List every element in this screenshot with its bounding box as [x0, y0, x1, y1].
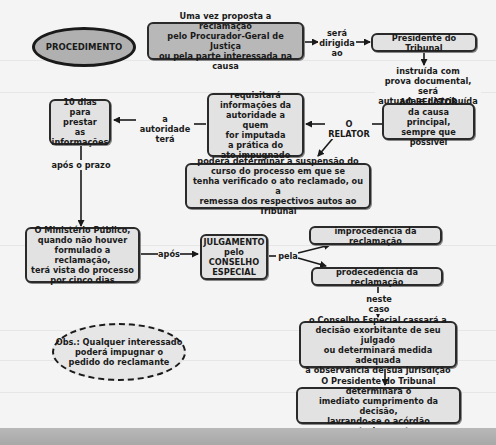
edge-label-neste-caso: neste caso	[355, 294, 403, 314]
node-suspensao-processo: poderá determinar a suspensão do curso d…	[185, 163, 371, 209]
node-presidente-tribunal: Presidente do Tribunal	[371, 33, 477, 52]
node-conselho-especial-cassara: o Conselho Especial cassará a decisão ex…	[299, 321, 457, 368]
node-improcedencia: improcedência da reclamação	[309, 226, 442, 245]
node-procedencia: prodecedência da reclamação	[311, 267, 443, 286]
edge-label-sera-dirigida: será dirigida ao	[318, 28, 356, 58]
edge-label-autoridade-tera: a autoridade terá	[136, 114, 194, 144]
ao-relator-title: AO RELATOR	[400, 97, 458, 107]
node-ao-relator: AO RELATOR da causa principal, sempre qu…	[382, 103, 475, 140]
edge-label-o-relator: O RELATOR	[326, 119, 372, 139]
node-10-dias: 10 dias para prestar as informações	[49, 99, 111, 145]
page-bottom-bar	[0, 428, 496, 445]
edge-label-apos: após	[158, 249, 180, 259]
note-obs-impugnar: Obs.: Qualquer interessado poderá impugn…	[52, 323, 186, 381]
node-ministerio-publico: O Ministério Público, quando não houver …	[25, 227, 140, 283]
node-julgamento-conselho: JULGAMENTO pelo CONSELHO ESPECIAL	[200, 234, 268, 280]
edge-label-apos-prazo: após o prazo	[49, 160, 113, 170]
node-presidente-determinara: O Presidente do Tribunal determinará o i…	[296, 387, 461, 424]
node-requisitara-informacoes: requisitará informações da autoridade a …	[207, 93, 304, 157]
node-proposta-reclamacao: Uma vez proposta a reclamação pelo Procu…	[147, 22, 304, 60]
procedimento-title-node: PROCEDIMENTO	[32, 27, 136, 67]
edge-label-pela: pela	[278, 251, 298, 261]
ao-relator-body: da causa principal, sempre que possível	[388, 107, 469, 147]
